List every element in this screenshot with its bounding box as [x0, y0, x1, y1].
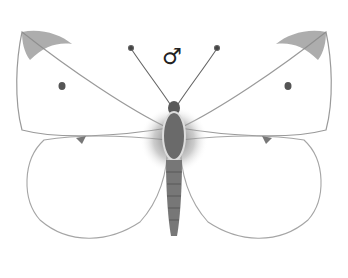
butterfly-drawing — [0, 0, 348, 278]
male-symbol: ♂ — [162, 46, 182, 68]
body — [163, 101, 185, 236]
left-forewing — [17, 31, 168, 136]
right-forewing — [180, 31, 331, 136]
butterfly-illustration: ♂ — [0, 0, 348, 278]
